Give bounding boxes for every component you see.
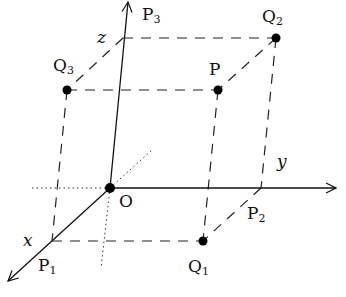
dash-P-to-Q1 (203, 90, 218, 241)
point-Q1 (199, 237, 208, 246)
label-Q1: Q1 (188, 258, 209, 277)
label-z-axis: z (97, 29, 106, 46)
negative-axis-extensions (32, 150, 152, 268)
dash-z-to-Q3 (67, 38, 123, 90)
dash-Q2-to-P2 (261, 38, 276, 188)
label-origin: O (119, 193, 133, 210)
label-Q2: Q2 (262, 8, 283, 27)
point-Q2 (272, 34, 281, 43)
coordinate-diagram: P3 z Q2 Q3 P y O P2 x P1 Q1 (0, 0, 346, 297)
label-P: P (209, 61, 220, 78)
negative-z-axis (101, 188, 110, 268)
axes (8, 2, 336, 281)
negative-x-axis (110, 150, 152, 188)
point-Q3 (63, 86, 72, 95)
dash-Q3-to-P1 (52, 90, 67, 241)
label-P2: P2 (247, 205, 265, 224)
label-P3: P3 (142, 6, 160, 25)
dash-Q2-to-P (218, 38, 276, 90)
label-x-axis: x (23, 232, 33, 249)
diagram-lines (0, 0, 346, 297)
z-axis (110, 2, 128, 188)
point-P (214, 86, 223, 95)
label-P1: P1 (38, 257, 56, 276)
origin-point (105, 183, 115, 193)
label-y-axis: y (277, 153, 287, 170)
label-Q3: Q3 (53, 57, 74, 76)
